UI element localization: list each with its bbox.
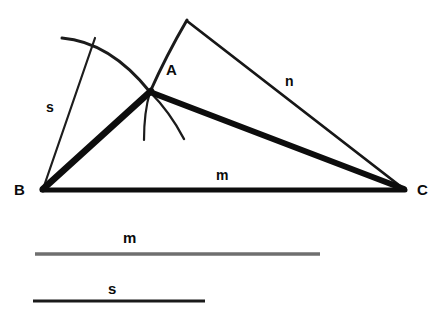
- side-label-m: m: [216, 167, 228, 183]
- geometry-figure: [0, 0, 441, 316]
- reference-label-s: s: [108, 280, 116, 297]
- side-label-n: n: [285, 73, 294, 89]
- vertex-label-B: B: [14, 181, 25, 198]
- figure-canvas: B A C m n s m s: [0, 0, 441, 316]
- reference-label-m: m: [123, 229, 136, 246]
- vertex-label-A: A: [166, 61, 177, 78]
- side-label-s: s: [46, 99, 54, 115]
- vertex-label-C: C: [417, 181, 428, 198]
